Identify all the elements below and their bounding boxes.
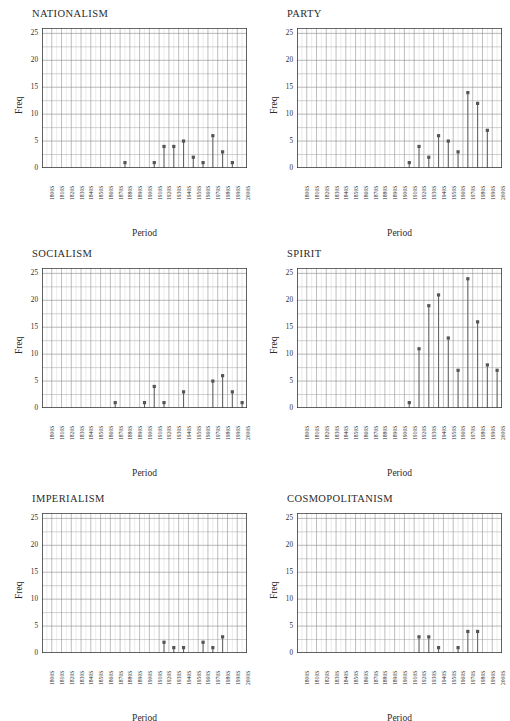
y-tick-label: 25 (275, 29, 293, 37)
x-axis-label: Period (370, 468, 430, 478)
data-point-marker (476, 630, 479, 633)
x-tick-label: 1900S (402, 426, 408, 440)
x-tick-label: 2000S (500, 671, 506, 685)
x-tick-label: 1950S (196, 671, 202, 685)
data-point-marker (211, 379, 214, 382)
y-tick-label: 10 (275, 595, 293, 603)
x-tick-label: 1950S (451, 186, 457, 200)
y-tick-label: 5 (20, 377, 38, 385)
x-tick-label: 1810S (59, 426, 65, 440)
x-tick-label: 1990S (235, 426, 241, 440)
x-tick-label: 1940S (441, 426, 447, 440)
y-tick-label: 20 (275, 296, 293, 304)
y-tick-label: 0 (275, 164, 293, 172)
x-tick-label: 1940S (186, 671, 192, 685)
x-tick-label: 1860S (108, 186, 114, 200)
data-point-marker (408, 161, 411, 164)
y-tick-label: 15 (20, 568, 38, 576)
x-tick-label: 1800S (49, 426, 55, 440)
chart-panel: SPIRITFreqPeriod05101520251800S1810S1820… (255, 240, 510, 485)
y-tick-label: 25 (275, 514, 293, 522)
y-tick-label: 0 (20, 164, 38, 172)
y-tick-label: 5 (20, 137, 38, 145)
x-tick-label: 1930S (431, 426, 437, 440)
x-axis-label: Period (370, 713, 430, 721)
data-point-marker (231, 161, 234, 164)
x-tick-label: 2000S (245, 426, 251, 440)
x-tick-label: 1820S (69, 671, 75, 685)
x-tick-label: 1800S (304, 671, 310, 685)
chart-title: NATIONALISM (32, 8, 108, 19)
chart-grid: NATIONALISMFreqPeriod05101520251800S1810… (0, 0, 510, 721)
x-tick-label: 1830S (334, 186, 340, 200)
x-tick-label: 1950S (451, 671, 457, 685)
x-tick-label: 1970S (470, 186, 476, 200)
x-tick-label: 1800S (49, 186, 55, 200)
x-tick-label: 1900S (402, 671, 408, 685)
y-tick-label: 5 (275, 137, 293, 145)
plot-area (297, 513, 502, 653)
data-point-marker (143, 401, 146, 404)
x-tick-label: 1850S (98, 671, 104, 685)
x-tick-label: 1940S (441, 186, 447, 200)
x-tick-label: 1930S (176, 186, 182, 200)
x-tick-label: 1880S (127, 671, 133, 685)
x-tick-label: 1820S (69, 426, 75, 440)
x-tick-label: 1850S (353, 426, 359, 440)
x-tick-label: 1990S (490, 186, 496, 200)
x-tick-label: 1850S (98, 186, 104, 200)
x-tick-label: 1980S (480, 671, 486, 685)
data-point-marker (211, 134, 214, 137)
chart-panel: COSMOPOLITANISMFreqPeriod05101520251800S… (255, 485, 510, 721)
chart-title: SOCIALISM (32, 248, 92, 259)
data-point-marker (162, 401, 165, 404)
data-point-marker (466, 91, 469, 94)
x-tick-label: 1850S (353, 671, 359, 685)
y-tick-label: 20 (275, 56, 293, 64)
data-point-marker (172, 145, 175, 148)
x-tick-label: 1880S (127, 426, 133, 440)
y-tick-label: 5 (275, 377, 293, 385)
data-point-marker (447, 336, 450, 339)
y-tick-label: 20 (20, 56, 38, 64)
y-tick-label: 20 (275, 541, 293, 549)
y-tick-label: 10 (275, 350, 293, 358)
data-point-marker (427, 304, 430, 307)
y-tick-label: 15 (275, 568, 293, 576)
x-tick-label: 1910S (157, 186, 163, 200)
y-tick-label: 10 (20, 110, 38, 118)
x-tick-label: 1910S (157, 426, 163, 440)
x-tick-label: 1860S (363, 426, 369, 440)
x-tick-label: 1900S (402, 186, 408, 200)
x-tick-label: 1860S (363, 671, 369, 685)
x-tick-label: 1990S (235, 671, 241, 685)
x-tick-label: 1810S (59, 671, 65, 685)
x-axis-label: Period (115, 228, 175, 238)
x-tick-label: 1830S (79, 186, 85, 200)
x-tick-label: 1870S (373, 186, 379, 200)
data-point-marker (417, 347, 420, 350)
x-tick-label: 1900S (147, 671, 153, 685)
data-point-marker (182, 139, 185, 142)
y-tick-label: 10 (20, 595, 38, 603)
x-tick-label: 1800S (49, 671, 55, 685)
plot-area (42, 28, 247, 168)
data-point-marker (114, 401, 117, 404)
x-tick-label: 1870S (118, 186, 124, 200)
x-tick-label: 2000S (245, 186, 251, 200)
x-tick-label: 1850S (353, 186, 359, 200)
plot-area (42, 268, 247, 408)
x-tick-label: 2000S (500, 426, 506, 440)
data-point-marker (476, 320, 479, 323)
y-tick-label: 15 (20, 323, 38, 331)
x-tick-label: 1990S (490, 671, 496, 685)
y-tick-label: 10 (20, 350, 38, 358)
x-tick-label: 1960S (460, 186, 466, 200)
x-tick-label: 1860S (363, 186, 369, 200)
chart-panel: IMPERIALISMFreqPeriod05101520251800S1810… (0, 485, 255, 721)
x-tick-label: 1810S (314, 426, 320, 440)
x-tick-label: 1980S (480, 426, 486, 440)
data-point-marker (211, 646, 214, 649)
x-tick-label: 1970S (470, 426, 476, 440)
data-point-marker (427, 635, 430, 638)
